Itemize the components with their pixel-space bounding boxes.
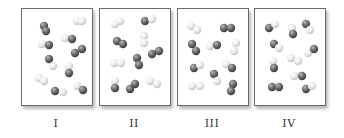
dark-atom (213, 41, 221, 49)
molecules-i (22, 9, 92, 105)
dark-atom (298, 72, 306, 80)
light-atom (193, 26, 201, 34)
molecule (126, 80, 139, 93)
panel-i (21, 8, 93, 106)
dark-atom (42, 27, 50, 35)
dark-atom (78, 45, 86, 53)
light-atom (230, 47, 238, 55)
dark-atom (79, 86, 87, 94)
molecule (227, 80, 237, 95)
molecules-ii (100, 9, 170, 105)
dark-atom (192, 47, 200, 55)
molecule (206, 41, 221, 50)
panel-label-iii: III (177, 117, 247, 130)
molecules-iii (178, 9, 248, 105)
molecule (270, 40, 283, 52)
dark-atom (228, 64, 236, 72)
dark-atom (65, 69, 73, 77)
dark-atom (135, 61, 143, 69)
molecule (38, 40, 53, 49)
molecule (71, 45, 86, 57)
molecule (35, 74, 48, 85)
light-atom (271, 20, 279, 28)
dark-atom (227, 87, 235, 95)
panel-ii (99, 8, 171, 106)
light-atom (232, 39, 240, 47)
light-atom (117, 59, 125, 67)
molecule (133, 54, 143, 69)
molecule (190, 61, 204, 72)
molecule (230, 39, 240, 55)
molecule (45, 55, 57, 70)
molecule (140, 32, 148, 47)
molecule (268, 83, 283, 91)
dark-atom (270, 64, 278, 72)
molecule (111, 17, 124, 28)
panel-iii (177, 8, 249, 106)
dark-atom (289, 30, 297, 38)
panel-label-iv: IV (254, 117, 324, 130)
molecule (265, 20, 279, 32)
molecule (111, 77, 119, 92)
panel-iv (254, 8, 326, 106)
dark-atom (227, 24, 235, 32)
light-atom (196, 61, 204, 69)
light-atom (308, 82, 316, 90)
dark-atom (45, 41, 53, 49)
light-atom (306, 26, 314, 34)
molecule (73, 17, 86, 25)
light-atom (188, 82, 196, 90)
molecule (146, 77, 161, 88)
dark-atom (51, 87, 59, 95)
light-atom (275, 44, 283, 52)
molecule (302, 20, 314, 34)
molecule (51, 87, 67, 96)
light-atom (294, 57, 302, 65)
molecule (288, 24, 297, 38)
molecule (40, 22, 50, 35)
molecule (73, 82, 87, 94)
dark-atom (275, 83, 283, 91)
molecule (110, 59, 125, 67)
light-atom (148, 15, 156, 23)
light-atom (49, 62, 57, 70)
dark-atom (131, 80, 139, 88)
light-atom (40, 77, 48, 85)
dark-atom (111, 84, 119, 92)
molecule (188, 82, 204, 90)
molecule (141, 15, 156, 25)
molecule (210, 70, 221, 85)
molecule (269, 57, 278, 72)
molecule (61, 34, 76, 43)
molecule (222, 60, 236, 72)
molecule (220, 24, 235, 32)
light-atom (213, 77, 221, 85)
dark-atom (310, 45, 318, 53)
molecules-iv (255, 9, 325, 105)
light-atom (196, 82, 204, 90)
molecule (148, 47, 163, 58)
light-atom (290, 72, 298, 80)
molecule (290, 72, 306, 80)
dark-atom (68, 35, 76, 43)
light-atom (116, 17, 124, 25)
dark-atom (119, 40, 127, 48)
dark-atom (155, 47, 163, 55)
molecule (65, 62, 73, 77)
light-atom (153, 80, 161, 88)
molecule (287, 54, 302, 65)
molecule (188, 40, 200, 55)
light-atom (140, 39, 148, 47)
molecule (187, 22, 201, 34)
molecule (302, 82, 316, 93)
light-atom (78, 17, 86, 25)
molecule (113, 37, 127, 48)
panel-label-ii: II (99, 117, 169, 130)
light-atom (59, 88, 67, 96)
molecule (304, 45, 318, 57)
panel-label-i: I (21, 117, 91, 130)
